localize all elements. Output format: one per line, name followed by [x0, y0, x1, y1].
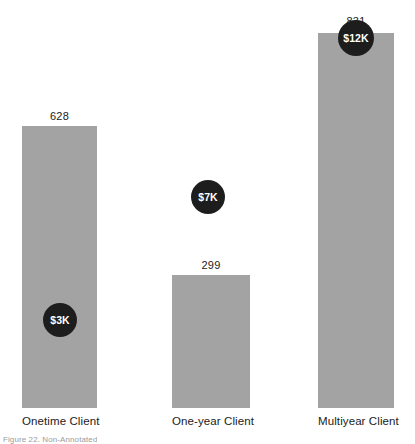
bar-one-year-client[interactable]: [172, 275, 250, 408]
bar-onetime-client[interactable]: [22, 126, 97, 408]
annotation-badge-one-year-client[interactable]: $7K: [191, 180, 225, 214]
bar-value-label-onetime-client: 628: [22, 110, 97, 123]
annotation-badge-multiyear-client[interactable]: $12K: [338, 20, 374, 56]
figure-caption: Figure 22. Non-Annotated: [3, 435, 97, 444]
annotation-badge-onetime-client[interactable]: $3K: [43, 303, 77, 337]
bar-value-label-one-year-client: 299: [172, 259, 250, 272]
category-label-multiyear-client: Multiyear Client: [318, 414, 394, 428]
category-label-one-year-client: One-year Client: [172, 414, 250, 428]
bar-group-multiyear-client: 831 Multiyear Client: [318, 0, 394, 441]
bar-group-onetime-client: 628 Onetime Client: [22, 0, 97, 441]
bar-group-one-year-client: 299 One-year Client: [172, 0, 250, 441]
bar-multiyear-client[interactable]: [318, 33, 394, 408]
category-label-onetime-client: Onetime Client: [22, 414, 97, 428]
